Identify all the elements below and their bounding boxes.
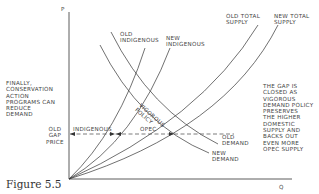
new-demand-label: NEW DEMAND <box>212 150 239 163</box>
old-indigenous-supply-curve <box>69 48 145 179</box>
old-demand-label: OLD DEMAND <box>222 134 249 147</box>
arrow-right-icon <box>110 132 115 136</box>
new-total-supply-label: NEW TOTAL SUPPLY <box>274 13 309 26</box>
y-axis-label: P <box>61 6 65 12</box>
indigenous-segment-label: INDIGENOUS <box>73 126 112 132</box>
old-indigenous-label: OLD INDIGENOUS <box>120 31 159 44</box>
gap-closed-note: THE GAP IS CLOSED AS VIGOROUS DEMAND POL… <box>263 83 313 152</box>
arrow-left-icon <box>70 132 75 136</box>
old-gap-price-label: OLD GAP PRICE <box>46 126 64 145</box>
new-indigenous-label: NEW INDIGENOUS <box>166 35 205 48</box>
x-axis-label: Q <box>279 184 284 190</box>
arrow-left-icon <box>116 132 121 136</box>
figure-caption: Figure 5.5 <box>6 178 61 190</box>
old-total-supply-label: OLD TOTAL SUPPLY <box>226 13 260 26</box>
conservation-note: FINALLY, CONSERVATION ACTION PROGRAMS CA… <box>6 80 55 118</box>
new-demand-curve <box>100 45 209 153</box>
